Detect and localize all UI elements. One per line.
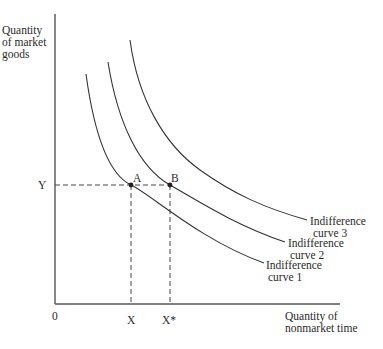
indifference-curve-1: [86, 74, 264, 263]
x-tick-label: X: [127, 314, 135, 326]
origin-label: 0: [52, 310, 58, 322]
indifference-curve-3: [130, 40, 307, 220]
curve-2-label: Indifference curve 2: [288, 237, 344, 261]
curve-label-line: Indifference: [288, 237, 344, 249]
diagram-canvas: [0, 0, 383, 349]
curve-label-line: Indifference: [266, 259, 322, 271]
indifference-curve-2: [108, 62, 285, 242]
x-axis-label-line: nonmarket time: [285, 322, 358, 334]
y-axis-label-line: Quantity: [2, 24, 46, 36]
point-a-label: A: [133, 172, 141, 184]
y-axis-label-line: of market: [2, 36, 46, 48]
y-axis-label-line: goods: [2, 48, 46, 60]
point-b-label: B: [171, 172, 179, 184]
y-tick-label: Y: [38, 179, 46, 191]
curve-label-line: Indifference: [310, 215, 366, 227]
x-axis-label: Quantity of nonmarket time: [285, 310, 358, 334]
curve-3-label: Indifference curve 3: [310, 215, 366, 239]
y-axis-label: Quantity of market goods: [2, 24, 46, 60]
xstar-tick-label: X*: [162, 314, 176, 326]
curve-label-line: curve 1: [266, 271, 322, 283]
curve-1-label: Indifference curve 1: [266, 259, 322, 283]
x-axis-label-line: Quantity of: [285, 310, 358, 322]
